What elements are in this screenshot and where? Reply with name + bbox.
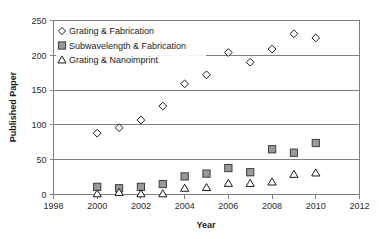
marker-square bbox=[290, 149, 297, 156]
x-tick-labels: 19982000200220042006200820102012 bbox=[43, 201, 369, 211]
y-tick-label: 250 bbox=[31, 16, 46, 26]
marker-diamond bbox=[159, 102, 167, 110]
legend-label: Grating & Fabrication bbox=[69, 26, 154, 36]
marker-diamond bbox=[290, 30, 298, 38]
marker-square bbox=[203, 170, 210, 177]
x-tick-label: 2000 bbox=[87, 201, 107, 211]
marker-triangle bbox=[268, 178, 276, 185]
legend-label: Subwavelength & Fabrication bbox=[69, 41, 186, 51]
marker-diamond bbox=[137, 116, 145, 124]
marker-diamond bbox=[93, 129, 101, 137]
x-tick-label: 2002 bbox=[131, 201, 151, 211]
marker-square bbox=[312, 139, 319, 146]
marker-square bbox=[225, 164, 232, 171]
x-tick-label: 2004 bbox=[175, 201, 195, 211]
marker-triangle bbox=[159, 190, 167, 197]
marker-square bbox=[181, 173, 188, 180]
marker-triangle bbox=[224, 179, 232, 186]
marker-triangle bbox=[202, 184, 210, 191]
marker-triangle bbox=[290, 170, 298, 177]
marker-diamond bbox=[312, 34, 320, 42]
chart-legend: Grating & FabricationSubwavelength & Fab… bbox=[56, 22, 206, 68]
y-tick-label: 200 bbox=[31, 51, 46, 61]
x-tick-label: 1998 bbox=[43, 201, 63, 211]
marker-diamond bbox=[246, 58, 254, 66]
chart-container: 19982000200220042006200820102012 0501001… bbox=[0, 0, 382, 239]
marker-diamond bbox=[268, 45, 276, 53]
scatter-chart: 19982000200220042006200820102012 0501001… bbox=[0, 0, 382, 239]
y-tick-label: 0 bbox=[41, 190, 46, 200]
y-tick-label: 150 bbox=[31, 85, 46, 95]
x-tick-label: 2012 bbox=[349, 201, 369, 211]
x-tick-label: 2010 bbox=[306, 201, 326, 211]
x-tick-label: 2008 bbox=[262, 201, 282, 211]
y-tick-labels: 050100150200250 bbox=[31, 16, 46, 200]
y-tick-label: 50 bbox=[36, 155, 46, 165]
y-axis-title: Published Paper bbox=[8, 71, 18, 142]
marker-square bbox=[268, 146, 275, 153]
marker-triangle bbox=[181, 184, 189, 191]
y-tick-label: 100 bbox=[31, 120, 46, 130]
marker-diamond bbox=[203, 71, 211, 79]
x-axis-title: Year bbox=[196, 220, 216, 230]
marker-square bbox=[247, 169, 254, 176]
x-tick-label: 2006 bbox=[218, 201, 238, 211]
marker-triangle bbox=[246, 179, 254, 186]
marker-triangle bbox=[312, 169, 320, 176]
legend-label: Grating & Nanoimprint bbox=[69, 55, 159, 65]
marker-diamond bbox=[181, 80, 189, 88]
marker-square bbox=[159, 180, 166, 187]
legend-marker-square bbox=[58, 42, 65, 49]
